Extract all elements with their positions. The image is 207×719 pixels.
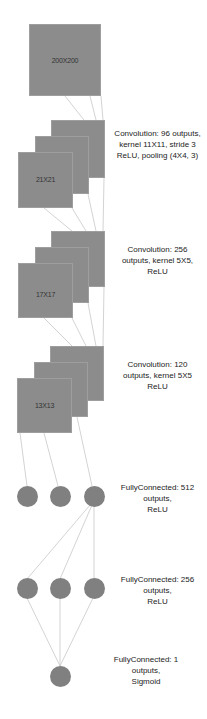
conv2-size-label: 17X17 (19, 291, 72, 298)
input-feature-map: 200X200 (29, 24, 101, 96)
fc256-node-1 (17, 578, 38, 599)
fc512-node-1 (17, 486, 38, 507)
conv2-caption-line-2: outputs, kernel 5X5, (108, 255, 207, 266)
fc256-caption: FullyConnected: 256 outputs, ReLU (108, 574, 207, 607)
fc256-caption-line-1: FullyConnected: 256 (108, 574, 207, 585)
conv1-feature-map-front: 21X21 (18, 152, 73, 208)
output-caption: FullyConnected: 1 outputs, Sigmoid (106, 654, 186, 687)
fc512-caption-line-1: FullyConnected: 512 (108, 482, 207, 493)
conv3-caption: Convolution: 120 outputs, kernel 5X5 ReL… (108, 359, 207, 392)
fc256-caption-line-3: ReLU (108, 596, 207, 607)
conv3-caption-line-1: Convolution: 120 (108, 359, 207, 370)
conv3-caption-line-2: outputs, kernel 5X5 (108, 370, 207, 381)
conv2-caption-line-1: Convolution: 256 (108, 244, 207, 255)
fc512-caption-line-3: ReLU (108, 504, 207, 515)
fc256-node-3 (84, 578, 105, 599)
fc256-caption-line-2: outputs, (108, 585, 207, 596)
conv2-feature-map-front: 17X17 (18, 263, 73, 318)
input-size-label: 200X200 (30, 57, 100, 64)
output-caption-line-2: outputs, (106, 665, 186, 676)
fc512-node-3 (84, 486, 105, 507)
fc512-caption: FullyConnected: 512 outputs, ReLU (108, 482, 207, 515)
conv1-caption-line-1: Convolution: 96 outputs, (108, 128, 207, 139)
output-caption-line-1: FullyConnected: 1 (106, 654, 186, 665)
conv3-caption-line-3: ReLU (108, 381, 207, 392)
output-caption-line-3: Sigmoid (106, 676, 186, 687)
conv2-caption-line-3: ReLU (108, 266, 207, 277)
conv1-caption-line-3: ReLU, pooling (4X4, 3) (108, 150, 207, 161)
conv3-size-label: 13X13 (18, 402, 71, 409)
fc512-caption-line-2: outputs, (108, 493, 207, 504)
conv1-size-label: 21X21 (19, 176, 72, 183)
fc256-node-2 (50, 578, 71, 599)
output-node (50, 666, 71, 687)
conv1-caption: Convolution: 96 outputs, kernel 11X11, s… (108, 128, 207, 161)
conv3-feature-map-front: 13X13 (17, 378, 72, 433)
conv2-caption: Convolution: 256 outputs, kernel 5X5, Re… (108, 244, 207, 277)
conv1-caption-line-2: kernel 11X11, stride 3 (108, 139, 207, 150)
fc512-node-2 (50, 486, 71, 507)
